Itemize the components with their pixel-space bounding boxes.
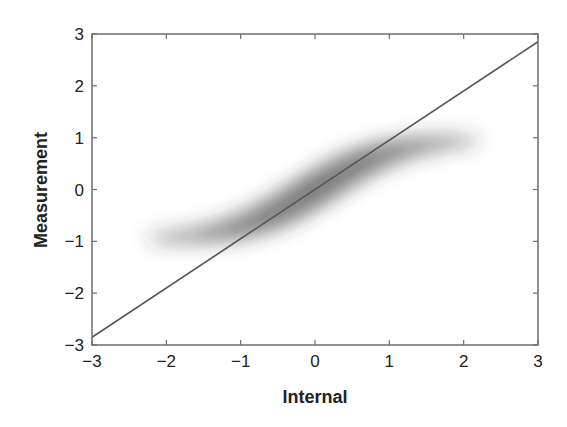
- y-tick-label: −2: [65, 284, 84, 303]
- chart: −3−2−10123 −3−2−10123 Internal Measureme…: [0, 0, 567, 427]
- y-tick-label: 1: [75, 129, 84, 148]
- x-axis-label: Internal: [282, 387, 347, 407]
- density-cloud: [141, 132, 486, 247]
- x-tick-label: 0: [310, 352, 319, 371]
- y-tick-label: −3: [65, 336, 84, 355]
- y-tick-label: 0: [75, 181, 84, 200]
- x-tick-labels: −3−2−10123: [82, 352, 542, 371]
- x-tick-label: −1: [231, 352, 250, 371]
- x-tick-label: 1: [385, 352, 394, 371]
- x-tick-label: −3: [82, 352, 101, 371]
- y-tick-label: −1: [65, 232, 84, 251]
- reference-line: [92, 42, 538, 337]
- x-tick-label: 3: [533, 352, 542, 371]
- y-tick-labels: −3−2−10123: [65, 25, 84, 355]
- y-tick-label: 2: [75, 77, 84, 96]
- x-tick-label: 2: [459, 352, 468, 371]
- y-tick-label: 3: [75, 25, 84, 44]
- x-tick-label: −2: [157, 352, 176, 371]
- y-axis-label: Measurement: [31, 132, 51, 248]
